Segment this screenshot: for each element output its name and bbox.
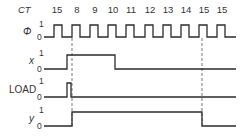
counter-value: 12 bbox=[145, 4, 156, 15]
counter-values: 158910111213141515 bbox=[52, 4, 228, 15]
counter-label: CT bbox=[18, 4, 32, 15]
level-0-label: 0 bbox=[37, 64, 42, 74]
level-0-label: 0 bbox=[37, 92, 42, 102]
level-1-label: 1 bbox=[39, 76, 44, 86]
counter-value: 11 bbox=[126, 4, 136, 15]
dashed-markers bbox=[72, 38, 202, 126]
counter-value: 10 bbox=[108, 4, 119, 15]
signal-name-phi: Φ bbox=[23, 26, 31, 37]
counter-value: 9 bbox=[92, 4, 97, 15]
counter-value: 13 bbox=[163, 4, 174, 15]
x-waveform bbox=[44, 55, 236, 69]
counter-value: 8 bbox=[74, 4, 79, 15]
counter-value: 15 bbox=[199, 4, 210, 15]
level-0-label: 0 bbox=[37, 32, 42, 42]
signal-name-x: x bbox=[28, 55, 35, 66]
clock-waveform bbox=[44, 25, 236, 37]
signal-phi: Φ 1 0 bbox=[23, 19, 236, 42]
counter-value: 15 bbox=[217, 4, 228, 15]
counter-value: 14 bbox=[181, 4, 192, 15]
load-waveform bbox=[44, 83, 236, 97]
timing-diagram: CT 158910111213141515 Φ 1 0 x 1 0 LOAD 1… bbox=[0, 0, 245, 138]
level-0-label: 0 bbox=[37, 121, 42, 131]
level-1-label: 1 bbox=[39, 19, 44, 29]
signal-y: y 1 0 bbox=[28, 105, 236, 131]
signal-x: x 1 0 bbox=[28, 48, 236, 74]
signal-name-load: LOAD bbox=[9, 84, 36, 95]
level-1-label: 1 bbox=[39, 48, 44, 58]
level-1-label: 1 bbox=[39, 105, 44, 115]
signal-name-y: y bbox=[28, 113, 35, 124]
counter-value: 15 bbox=[52, 4, 63, 15]
y-waveform bbox=[44, 112, 236, 126]
